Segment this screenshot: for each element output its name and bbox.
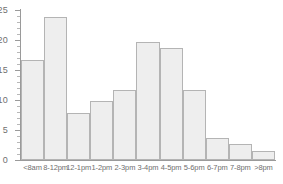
y-axis-tick <box>15 70 20 71</box>
x-axis-tick-label: >8pm <box>249 163 278 172</box>
y-axis-minor-tick <box>17 28 20 29</box>
y-axis-minor-tick <box>17 64 20 65</box>
bar <box>90 101 113 160</box>
y-axis-tick-label: 10 <box>0 95 8 105</box>
bar <box>21 60 44 160</box>
bar <box>113 90 136 160</box>
histogram-chart: 0510152025 <8am8-12pm12-1pm1-2pm2-3pm3-4… <box>0 0 283 184</box>
y-axis-minor-tick <box>17 142 20 143</box>
y-axis-minor-tick <box>17 52 20 53</box>
y-axis-tick-label: 0 <box>3 155 8 165</box>
y-axis-minor-tick <box>17 22 20 23</box>
y-axis-tick <box>15 10 20 11</box>
bar <box>252 151 275 160</box>
x-axis-line <box>20 160 276 161</box>
y-axis-minor-tick <box>17 112 20 113</box>
y-axis-tick-label: 20 <box>0 35 8 45</box>
x-axis-labels: <8am8-12pm12-1pm1-2pm2-3pm3-4pm4-5pm5-6p… <box>21 163 275 181</box>
y-axis-minor-tick <box>17 94 20 95</box>
bar <box>229 144 252 160</box>
y-axis-minor-tick <box>17 136 20 137</box>
y-axis-minor-tick <box>17 106 20 107</box>
y-axis-minor-tick <box>17 118 20 119</box>
y-axis-tick-label: 5 <box>3 125 8 135</box>
y-axis-minor-tick <box>17 16 20 17</box>
y-axis-minor-tick <box>17 148 20 149</box>
y-axis-minor-tick <box>17 88 20 89</box>
bar <box>206 138 229 160</box>
y-axis-minor-tick <box>17 154 20 155</box>
y-axis-minor-tick <box>17 82 20 83</box>
y-axis-tick <box>15 100 20 101</box>
y-axis-minor-tick <box>17 58 20 59</box>
y-axis-minor-tick <box>17 76 20 77</box>
bar-series <box>21 0 275 160</box>
y-axis-minor-tick <box>17 124 20 125</box>
bar <box>183 90 206 160</box>
bar <box>44 17 67 160</box>
bar <box>160 48 183 160</box>
y-axis-tick <box>15 130 20 131</box>
bar <box>136 42 159 160</box>
y-axis-tick-label: 25 <box>0 5 8 15</box>
y-axis-tick-label: 15 <box>0 65 8 75</box>
y-axis-minor-tick <box>17 46 20 47</box>
y-axis-tick <box>15 40 20 41</box>
y-axis-minor-tick <box>17 34 20 35</box>
bar <box>67 113 90 160</box>
